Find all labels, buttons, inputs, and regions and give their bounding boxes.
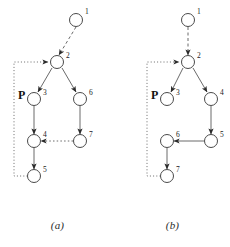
edge-2-to-4 xyxy=(193,68,207,92)
node-label-b-3: 3 xyxy=(176,88,180,97)
node-a-5[interactable] xyxy=(28,170,41,183)
node-label-a-1: 1 xyxy=(85,7,89,16)
node-label-b-7: 7 xyxy=(176,165,180,174)
node-a-3[interactable] xyxy=(28,93,41,106)
graph-a-svg: 1 2 3 6 4 7 5 P xyxy=(0,0,115,215)
node-label-a-6: 6 xyxy=(89,88,93,97)
p-label-b: P xyxy=(151,88,158,102)
node-label-a-4: 4 xyxy=(43,130,47,139)
node-a-2[interactable] xyxy=(51,56,64,69)
node-b-2[interactable] xyxy=(182,56,195,69)
node-label-a-5: 5 xyxy=(43,165,47,174)
p-label-a: P xyxy=(18,88,25,102)
edge-5-to-2-feedback xyxy=(14,62,48,176)
node-b-3[interactable] xyxy=(161,93,174,106)
edge-7-to-2-feedback xyxy=(147,62,179,176)
node-label-b-6: 6 xyxy=(176,130,180,139)
node-a-7[interactable] xyxy=(74,135,87,148)
diagram-panel-a: 1 2 3 6 4 7 5 P xyxy=(0,0,115,215)
node-b-1[interactable] xyxy=(182,14,195,27)
node-a-6[interactable] xyxy=(74,93,87,106)
graph-b-svg: 1 2 3 4 5 6 7 P xyxy=(115,0,230,215)
node-a-1[interactable] xyxy=(70,14,83,27)
node-label-b-1: 1 xyxy=(197,7,201,16)
edge-2-to-6 xyxy=(62,68,76,92)
node-label-a-2: 2 xyxy=(66,51,70,60)
node-b-7[interactable] xyxy=(161,170,174,183)
node-label-a-3: 3 xyxy=(43,88,47,97)
node-label-b-2: 2 xyxy=(197,51,201,60)
figure-container: 1 2 3 6 4 7 5 P xyxy=(0,0,230,247)
node-b-6[interactable] xyxy=(161,135,174,148)
caption-b: (b) xyxy=(115,219,230,231)
node-label-b-5: 5 xyxy=(220,130,224,139)
caption-a: (a) xyxy=(0,219,115,231)
node-label-a-7: 7 xyxy=(89,130,93,139)
diagram-panel-b: 1 2 3 4 5 6 7 P xyxy=(115,0,230,215)
node-label-b-4: 4 xyxy=(220,88,224,97)
node-b-4[interactable] xyxy=(205,93,218,106)
node-a-4[interactable] xyxy=(28,135,41,148)
node-b-5[interactable] xyxy=(205,135,218,148)
